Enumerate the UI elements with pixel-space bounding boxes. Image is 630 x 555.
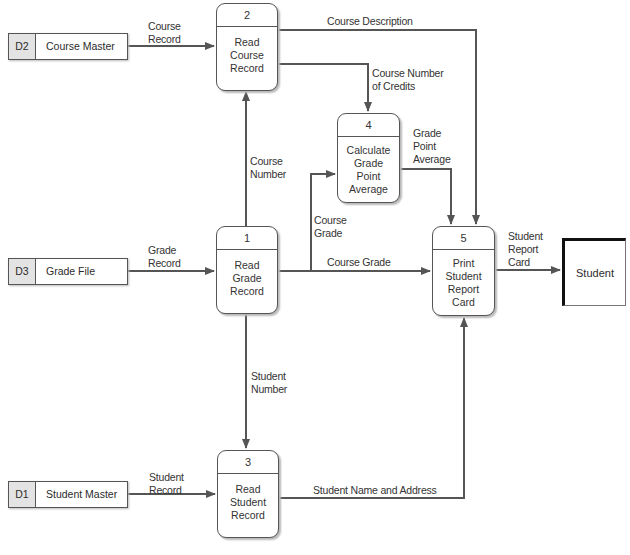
process-name-line: Record	[217, 62, 277, 75]
flow-label-line: Record	[148, 257, 181, 270]
data-flow-diagram: D2 Course Master D3 Grade File D1 Studen…	[0, 0, 630, 555]
process-name-line: Report	[433, 283, 494, 296]
flow-label-line: Average	[413, 153, 451, 166]
data-store-name: Course Master	[36, 34, 115, 59]
data-store-name: Student Master	[36, 482, 117, 507]
flow-label-line: of Credits	[372, 80, 444, 93]
process-name: Read Grade Record	[217, 250, 277, 298]
process-5[interactable]: 5 Print Student Report Card	[432, 226, 495, 316]
process-2[interactable]: 2 Read Course Record	[216, 3, 278, 91]
flow-label-line: Grade	[314, 227, 347, 240]
flow-label-line: Student	[149, 471, 184, 484]
flow-label-line: Report	[508, 243, 543, 256]
flow-label-course-number-of-credits: Course Number of Credits	[372, 67, 444, 93]
flow-label-course-grade: Course Grade	[327, 256, 391, 269]
flow-label-line: Course Number	[372, 67, 444, 80]
process-id: 1	[217, 227, 277, 250]
data-store-d3[interactable]: D3 Grade File	[8, 258, 128, 285]
flow-label-course-number: Course Number	[250, 155, 286, 181]
flow-label-line: Number	[251, 383, 287, 396]
process-name-line: Read	[217, 36, 277, 49]
process-name: Read Course Record	[217, 27, 277, 75]
data-store-name: Grade File	[36, 259, 95, 284]
flow-label-line: Course	[314, 214, 347, 227]
flow-label-course-grade-branch: Course Grade	[314, 214, 347, 240]
flow-label-student-record: Student Record	[149, 471, 184, 497]
process-name-line: Point	[338, 170, 399, 183]
process-4[interactable]: 4 Calculate Grade Point Average	[337, 113, 400, 203]
flow-label-line: Record	[148, 33, 181, 46]
process-name-line: Grade	[338, 157, 399, 170]
flow-label-line: Course Grade	[327, 256, 391, 269]
process-name-line: Print	[433, 257, 494, 270]
flow-grade-point-average	[400, 169, 451, 224]
process-name-line: Student	[433, 270, 494, 283]
flow-label-line: Number	[250, 168, 286, 181]
process-id: 5	[433, 227, 494, 250]
process-name-line: Card	[433, 296, 494, 309]
data-store-id: D1	[9, 482, 36, 507]
flow-label-line: Record	[149, 484, 184, 497]
flow-label-line: Grade	[413, 127, 451, 140]
process-id: 2	[217, 4, 277, 27]
process-name-line: Read	[217, 259, 277, 272]
process-name: Read Student Record	[218, 474, 278, 522]
flow-label-student-report-card: Student Report Card	[508, 230, 543, 269]
process-name-line: Calculate	[338, 144, 399, 157]
entity-name: Student	[576, 267, 614, 279]
external-entity-student[interactable]: Student	[562, 238, 626, 306]
process-3[interactable]: 3 Read Student Record	[217, 450, 279, 538]
process-id: 3	[218, 451, 278, 474]
process-id: 4	[338, 114, 399, 137]
flow-label-line: Student	[508, 230, 543, 243]
process-name-line: Record	[217, 285, 277, 298]
process-name-line: Student	[218, 496, 278, 509]
flow-course-number-of-credits	[277, 64, 368, 111]
data-store-id: D2	[9, 34, 36, 59]
process-name: Calculate Grade Point Average	[338, 137, 399, 196]
process-name-line: Record	[218, 509, 278, 522]
process-name-line: Course	[217, 49, 277, 62]
flow-label-grade-record: Grade Record	[148, 244, 181, 270]
process-name: Print Student Report Card	[433, 250, 494, 309]
flow-label-student-number: Student Number	[251, 370, 287, 396]
process-1[interactable]: 1 Read Grade Record	[216, 226, 278, 314]
flow-label-line: Student Name and Address	[313, 484, 437, 497]
flow-label-line: Student	[251, 370, 287, 383]
flow-student-name-address	[278, 318, 464, 498]
flow-label-course-description: Course Description	[327, 15, 413, 28]
data-store-id: D3	[9, 259, 36, 284]
process-name-line: Average	[338, 183, 399, 196]
data-store-d2[interactable]: D2 Course Master	[8, 33, 128, 60]
flow-label-grade-point-average: Grade Point Average	[413, 127, 451, 166]
flow-label-line: Course	[250, 155, 286, 168]
data-store-d1[interactable]: D1 Student Master	[8, 481, 128, 508]
flow-label-line: Point	[413, 140, 451, 153]
flow-label-line: Course	[148, 20, 181, 33]
process-name-line: Read	[218, 483, 278, 496]
flow-label-line: Card	[508, 256, 543, 269]
flow-label-line: Course Description	[327, 15, 413, 28]
flow-label-line: Grade	[148, 244, 181, 257]
flow-label-student-name-address: Student Name and Address	[313, 484, 437, 497]
process-name-line: Grade	[217, 272, 277, 285]
flow-label-course-record: Course Record	[148, 20, 181, 46]
